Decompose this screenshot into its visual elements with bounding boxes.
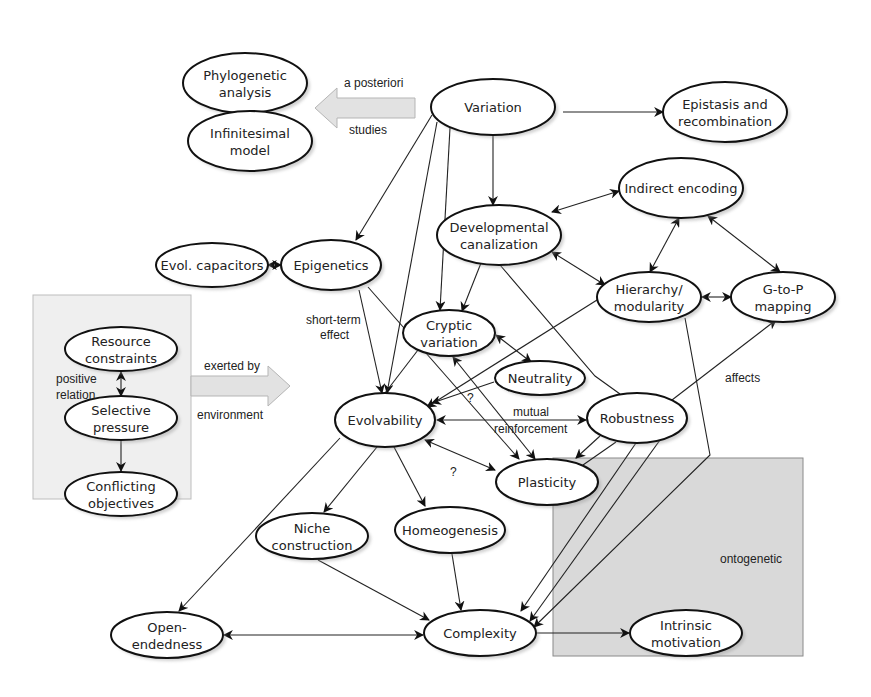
edge-indirect-to-gtop (708, 216, 780, 272)
node-openendedness[interactable]: Open-endedness (111, 612, 226, 661)
node-label: Neutrality (508, 371, 573, 386)
node-gtop[interactable]: G-to-Pmapping (731, 272, 838, 325)
node-label: Open- (147, 620, 187, 635)
edge-niche-to-complexity (318, 560, 429, 620)
node-ellipse (663, 82, 787, 142)
node-hierarchy[interactable]: Hierarchy/modularity (597, 272, 704, 325)
edge-robustness-to-plasticity (576, 436, 600, 458)
label-environment: environment (197, 408, 264, 422)
node-label: pressure (93, 420, 149, 435)
node-label: Epistasis and (682, 97, 768, 112)
node-ellipse (188, 111, 312, 171)
node-label: Niche (294, 521, 331, 536)
label-a-posteriori: a posteriori (344, 76, 403, 90)
node-neutrality[interactable]: Neutrality (495, 361, 588, 398)
label-positive: positive (56, 372, 97, 386)
node-ellipse (731, 272, 835, 322)
node-complexity[interactable]: Complexity (424, 610, 539, 659)
edge-canalization-to-indirect (552, 191, 619, 212)
label-short-term-1: short-term (306, 313, 361, 327)
node-label: Infinitesimal (210, 126, 290, 141)
node-label: G-to-P (763, 282, 804, 297)
node-epistasis[interactable]: Epistasis andrecombination (663, 82, 790, 145)
node-ellipse (597, 272, 701, 322)
node-evolvability[interactable]: Evolvability (335, 393, 438, 450)
node-label: variation (420, 335, 477, 350)
node-label: modularity (614, 299, 685, 314)
node-infinitesimal[interactable]: Infinitesimalmodel (188, 111, 315, 174)
node-label: Indirect encoding (624, 181, 737, 196)
node-label: objectives (88, 496, 154, 511)
node-robustness[interactable]: Robustness (587, 393, 690, 446)
node-canalization[interactable]: Developmentalcanalization (437, 205, 564, 268)
label-mutual: mutual (513, 405, 549, 419)
node-conflicting[interactable]: Conflictingobjectives (65, 472, 180, 519)
node-label: mapping (754, 299, 811, 314)
node-label: Intrinsic (660, 618, 712, 633)
node-label: canalization (460, 237, 538, 252)
node-label: Plasticity (518, 475, 577, 490)
label-reinforcement: reinforcement (494, 422, 568, 436)
label-affects: affects (725, 371, 760, 385)
node-epigenetics[interactable]: Epigenetics (281, 240, 384, 293)
node-homeogenesis[interactable]: Homeogenesis (395, 507, 508, 556)
a-posteriori-arrow-icon (315, 88, 415, 128)
node-label: Hierarchy/ (615, 282, 683, 297)
node-ellipse (437, 205, 561, 265)
edge-canalization-to-hierarchy (552, 252, 605, 285)
label-relation: relation (56, 388, 95, 402)
node-label: endedness (132, 637, 203, 652)
edge-homeogenesis-to-complexity (452, 554, 461, 610)
node-ellipse (183, 53, 307, 113)
node-label: model (230, 143, 270, 158)
node-label: Homeogenesis (402, 523, 498, 538)
node-capacitors[interactable]: Evol. capacitors (156, 243, 271, 290)
edge-evolvability-to-homeogenesis (394, 447, 425, 506)
edge-epigenetics-to-evolvability (359, 290, 382, 393)
edge-indirect-to-hierarchy (650, 218, 679, 272)
node-label: Epigenetics (293, 258, 368, 273)
label-studies: studies (349, 123, 387, 137)
node-label: construction (272, 538, 353, 553)
node-label: Evolvability (347, 413, 422, 428)
node-phylogenetic[interactable]: Phylogeneticanalysis (183, 53, 310, 116)
node-label: Evol. capacitors (161, 258, 264, 273)
label-ontogenetic: ontogenetic (720, 552, 782, 566)
node-label: constraints (85, 351, 157, 366)
node-label: Phylogenetic (203, 68, 287, 83)
node-label: Resource (91, 334, 151, 349)
edge-evolvability-to-plasticity (425, 440, 495, 470)
label-question-2: ? (450, 465, 457, 479)
node-label: Complexity (443, 626, 517, 641)
node-label: motivation (651, 635, 721, 650)
node-label: Selective (91, 403, 150, 418)
edge-canalization-to-cryptic (462, 263, 481, 311)
edge-cryptic-to-neutrality (496, 335, 531, 362)
edge-cryptic-to-evolvability (385, 350, 418, 393)
node-label: recombination (678, 114, 772, 129)
node-indirect[interactable]: Indirect encoding (619, 158, 746, 221)
concept-map-canvas: PhylogeneticanalysisInfinitesimalmodelVa… (0, 0, 871, 697)
node-label: Conflicting (86, 479, 155, 494)
node-label: Robustness (600, 411, 675, 426)
node-label: Variation (464, 100, 522, 115)
edge-neutrality-to-evolvability (432, 382, 494, 403)
node-plasticity[interactable]: Plasticity (496, 459, 601, 508)
node-label: analysis (219, 85, 272, 100)
node-label: Developmental (449, 220, 548, 235)
edge-evolvability-to-niche (324, 447, 377, 512)
label-exerted-by: exerted by (204, 359, 260, 373)
label-short-term-2: effect (320, 328, 350, 342)
label-question-1: ? (467, 391, 474, 405)
node-label: Cryptic (426, 318, 472, 333)
node-niche[interactable]: Nicheconstruction (256, 513, 371, 562)
